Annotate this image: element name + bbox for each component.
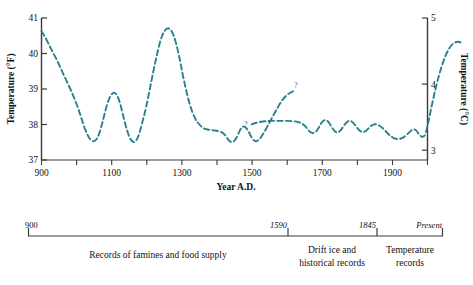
x-tick-label-1100: 1100 xyxy=(102,168,121,178)
timeline-caption-famine-records: Records of famines and food supply xyxy=(89,250,227,260)
x-axis-tick-labels: 900 1100 1300 1500 1700 1900 xyxy=(34,168,402,178)
timeline-caption-temperature-line2: records xyxy=(396,258,424,268)
y-axis-title-left: Temperature (°F) xyxy=(6,53,17,124)
left-tick-label-38: 38 xyxy=(29,120,39,130)
uncertainty-marker-left: ? xyxy=(294,81,298,90)
x-axis-ticks xyxy=(42,160,428,165)
timeline-label-1590: 1590 xyxy=(270,220,288,230)
x-tick-label-1900: 1900 xyxy=(383,168,402,178)
timeline-label-900: 900 xyxy=(25,220,38,230)
left-tick-label-37: 37 xyxy=(29,155,39,165)
figure-root: 37 38 39 40 41 3 4 5 xyxy=(0,0,473,285)
timeline-caption-temperature-line1: Temperature xyxy=(386,245,434,255)
left-axis-tick-labels: 37 38 39 40 41 xyxy=(29,13,39,165)
records-timeline: 900 1590 1845 Present Records of famines… xyxy=(25,220,443,268)
x-tick-label-1700: 1700 xyxy=(313,168,332,178)
x-axis-title: Year A.D. xyxy=(216,182,255,192)
uncertainty-marker-right: ? xyxy=(244,120,248,129)
temperature-curve-segment-1 xyxy=(42,28,295,142)
x-tick-label-1500: 1500 xyxy=(243,168,262,178)
left-tick-label-41: 41 xyxy=(29,13,39,23)
timeline-label-present: Present xyxy=(415,220,442,230)
x-tick-label-1300: 1300 xyxy=(172,168,191,178)
temperature-history-chart: 37 38 39 40 41 3 4 5 xyxy=(0,0,473,285)
y-axis-title-right: Temperature (°C) xyxy=(458,53,469,125)
timeline-caption-drift-ice-line2: historical records xyxy=(299,258,365,268)
right-axis-tick-labels: 3 4 5 xyxy=(431,13,436,155)
x-tick-label-900: 900 xyxy=(34,168,49,178)
right-tick-label-5: 5 xyxy=(431,13,436,23)
right-tick-label-3: 3 xyxy=(431,146,436,156)
temperature-curve-segment-2 xyxy=(252,42,464,139)
left-tick-label-39: 39 xyxy=(29,84,39,94)
left-tick-label-40: 40 xyxy=(29,49,39,59)
timeline-caption-drift-ice-line1: Drift ice and xyxy=(308,245,356,255)
timeline-label-1845: 1845 xyxy=(359,220,376,230)
